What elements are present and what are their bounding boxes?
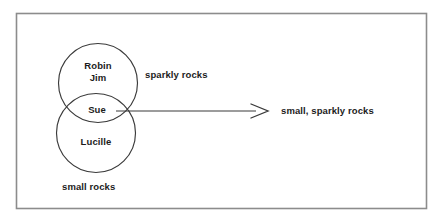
member-label-jim: Jim [90,72,107,83]
intersection-label-small-sparkly-rocks: small, sparkly rocks [281,105,374,116]
set-label-sparkly-rocks: sparkly rocks [145,69,208,80]
member-label-sue: Sue [88,104,106,115]
member-label-robin: Robin [84,60,111,71]
venn-diagram-canvas: Robin Jim Sue Lucille sparkly rocks smal… [0,0,441,221]
member-label-lucille: Lucille [81,136,112,147]
set-label-small-rocks: small rocks [62,181,115,192]
